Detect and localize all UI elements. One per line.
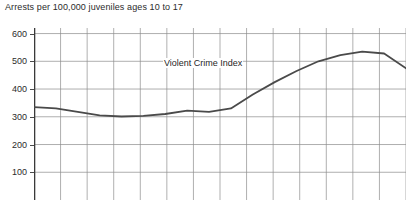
- plot-area: [34, 28, 406, 200]
- y-tick-label: 100: [12, 167, 27, 177]
- y-tick-label: 400: [12, 84, 27, 94]
- chart-figure: Arrests per 100,000 juveniles ages 10 to…: [0, 0, 410, 200]
- chart-title: Arrests per 100,000 juveniles ages 10 to…: [5, 2, 183, 12]
- chart-series-layer: [34, 28, 406, 200]
- y-tick-label: 200: [12, 140, 27, 150]
- series-annotation-violent-crime-index: Violent Crime Index: [163, 58, 243, 68]
- y-tick-label: 600: [12, 29, 27, 39]
- y-tick-label: 500: [12, 56, 27, 66]
- y-axis: 600500400300200100: [0, 28, 34, 200]
- y-tick-label: 300: [12, 112, 27, 122]
